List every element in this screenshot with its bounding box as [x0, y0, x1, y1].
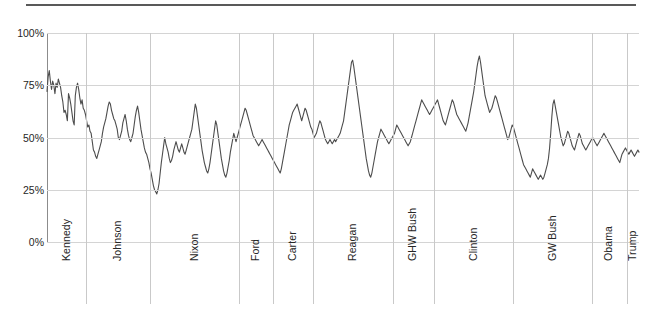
- president-divider-6: [393, 33, 394, 304]
- gridline-y-25: [47, 190, 639, 191]
- x-label-nixon: Nixon: [188, 234, 200, 261]
- president-divider-4: [273, 33, 274, 304]
- x-label-carter: Carter: [286, 231, 298, 261]
- x-label-kennedy: Kennedy: [60, 219, 72, 261]
- x-label-johnson: Johnson: [111, 221, 123, 261]
- president-divider-7: [434, 33, 435, 304]
- x-label-clinton: Clinton: [467, 228, 479, 261]
- gridline-y-100: [47, 33, 639, 34]
- president-divider-8: [513, 33, 514, 304]
- y-tick-label-25: 25%: [0, 184, 44, 196]
- y-tick-label-100: 100%: [0, 27, 44, 39]
- president-divider-2: [150, 33, 151, 304]
- x-label-ford: Ford: [249, 239, 261, 261]
- x-label-ghw-bush: GHW Bush: [406, 208, 418, 261]
- y-axis-tick-labels: 0%25%50%75%100%: [0, 0, 44, 321]
- gridline-y-75: [47, 85, 639, 86]
- header-rule: [26, 4, 636, 6]
- president-divider-10: [627, 33, 628, 304]
- y-tick-label-75: 75%: [0, 79, 44, 91]
- y-tick-label-50: 50%: [0, 132, 44, 144]
- president-divider-9: [592, 33, 593, 304]
- plot-area: [47, 33, 639, 242]
- x-label-reagan: Reagan: [346, 224, 358, 261]
- x-label-gw-bush: GW Bush: [546, 215, 558, 261]
- president-divider-5: [313, 33, 314, 304]
- y-tick-label-0: 0%: [0, 236, 44, 248]
- president-divider-3: [239, 33, 240, 304]
- approval-polyline: [47, 56, 639, 194]
- approval-rating-chart: 0%25%50%75%100% KennedyJohnsonNixonFordC…: [0, 0, 657, 321]
- gridline-y-50: [47, 138, 639, 139]
- x-label-obama: Obama: [602, 226, 614, 261]
- president-divider-1: [86, 33, 87, 304]
